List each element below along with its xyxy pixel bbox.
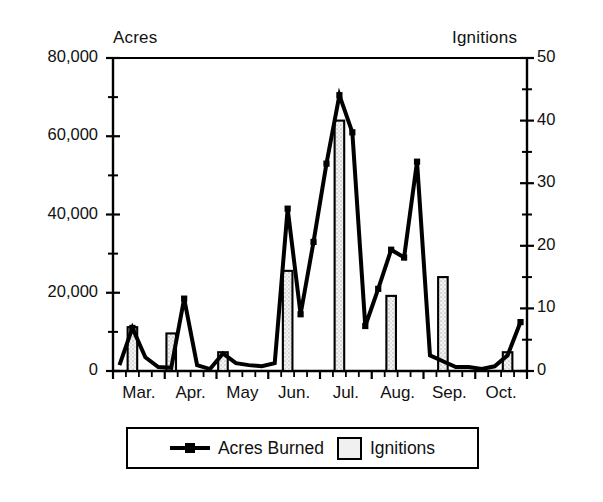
line-data-point [310,239,316,245]
line-data-point [401,254,407,260]
line-marker-icon [170,446,210,450]
line-data-point [362,323,368,329]
legend-label-acres-burned: Acres Burned [218,438,324,459]
line-data-point [297,311,303,317]
line-data-point [375,286,381,292]
line-data-point [323,161,329,167]
bar [438,277,448,371]
line-data-point [129,325,135,331]
line-data-point [517,319,523,325]
line-data-point [336,92,342,98]
legend-label-ignitions: Ignitions [370,438,435,459]
line-data-point [388,247,394,253]
line-data-point [181,296,187,302]
line-series [119,95,520,369]
legend-item-acres-burned: Acres Burned [170,438,324,459]
bar-swatch-icon [337,437,362,460]
line-data-point [349,129,355,135]
bar [386,296,396,371]
chart-legend: Acres Burned Ignitions [126,427,479,469]
line-data-point [414,159,420,165]
legend-item-ignitions: Ignitions [337,437,435,460]
bar [335,121,345,371]
bar [283,271,293,371]
chart-figure: Acres Ignitions 020,00040,00060,00080,00… [0,0,603,502]
line-data-point [285,206,291,212]
